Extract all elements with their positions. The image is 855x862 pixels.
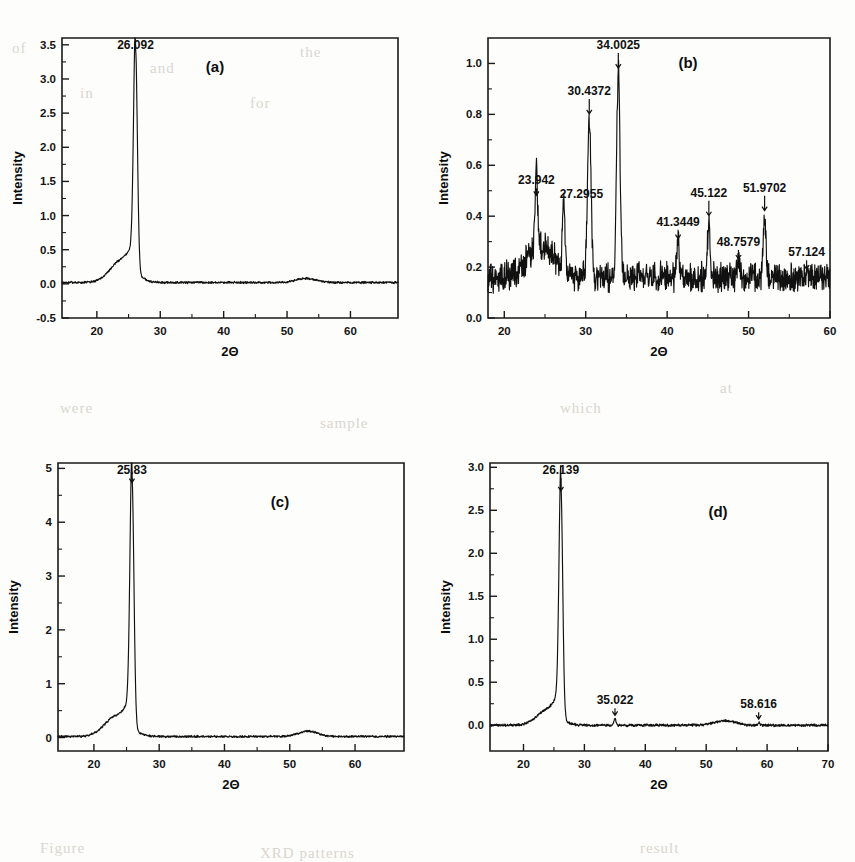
y-tick-label: 0.5 [40, 244, 57, 256]
x-tick-label: 40 [639, 758, 652, 770]
y-tick-label: 0.4 [466, 210, 483, 222]
peak-arrow [534, 188, 539, 195]
x-tick-label: 60 [349, 758, 362, 770]
bleed-text: which [560, 400, 602, 417]
x-tick-label: 20 [517, 758, 530, 770]
peak-label: 25.83 [117, 463, 147, 477]
y-tick-label: 3.0 [468, 461, 484, 473]
xrd-trace-d [490, 466, 828, 727]
y-axis-title: Intensity [6, 580, 21, 634]
peak-label: 48.7579 [717, 235, 761, 249]
peak-label: 35.022 [597, 693, 634, 707]
peak-arrow [587, 99, 592, 114]
bleed-text: at [720, 380, 733, 397]
x-tick-label: 50 [700, 758, 713, 770]
xrd-plot-b: 0.00.20.40.60.81.0203040506023.94227.295… [428, 20, 855, 370]
x-tick-label: 60 [824, 325, 837, 337]
y-tick-label: 0.0 [466, 312, 482, 324]
x-axis-title: 2Θ [650, 777, 667, 792]
x-tick-label: 70 [822, 758, 835, 770]
peak-arrow [675, 230, 680, 239]
peak-label: 45.122 [690, 186, 727, 200]
y-tick-label: 2.0 [468, 547, 484, 559]
peak-label: 30.4372 [568, 84, 612, 98]
y-axis-title: Intensity [438, 580, 453, 634]
panel-letter-b: (b) [678, 54, 697, 71]
y-tick-label: 1.0 [40, 210, 56, 222]
y-tick-label: 2 [46, 624, 52, 636]
y-tick-label: 1.5 [40, 175, 57, 187]
y-tick-label: 2.5 [468, 504, 485, 516]
y-tick-label: 0.0 [468, 719, 484, 731]
x-tick-label: 40 [217, 325, 230, 337]
y-axis-title: Intensity [436, 151, 451, 205]
bleed-text: XRD patterns [260, 845, 355, 862]
x-tick-label: 40 [218, 758, 231, 770]
plot-frame-c [58, 463, 404, 751]
y-tick-label: 5 [46, 462, 53, 474]
y-tick-label: 1.0 [466, 57, 482, 69]
x-axis-title: 2Θ [650, 344, 667, 359]
x-tick-label: 30 [153, 758, 166, 770]
y-tick-label: -0.5 [36, 312, 56, 324]
y-tick-label: 0 [46, 732, 52, 744]
y-tick-label: 3.5 [40, 39, 57, 51]
y-tick-label: 1.0 [468, 633, 484, 645]
peak-arrow [558, 478, 563, 491]
xrd-panel-a: -0.50.00.51.01.52.02.53.03.5203040506026… [0, 20, 420, 370]
xrd-plot-a: -0.50.00.51.01.52.02.53.03.5203040506026… [0, 20, 420, 370]
y-tick-label: 2.5 [40, 107, 57, 119]
y-axis-title: Intensity [10, 151, 25, 205]
peak-label: 26.092 [117, 38, 154, 52]
bleed-text: sample [320, 415, 369, 432]
bleed-text: Figure [40, 840, 85, 857]
x-tick-label: 50 [281, 325, 294, 337]
x-tick-label: 50 [283, 758, 296, 770]
xrd-plot-c: 012345203040506025.832ΘIntensity(c) [0, 445, 425, 805]
y-tick-label: 0.2 [466, 261, 482, 273]
x-axis-title: 2Θ [221, 344, 238, 359]
xrd-trace-a [62, 38, 398, 284]
y-tick-label: 0.8 [466, 108, 483, 120]
peak-label: 57.124 [788, 245, 825, 259]
x-tick-label: 30 [578, 758, 591, 770]
y-tick-label: 0.6 [466, 159, 482, 171]
x-tick-label: 30 [579, 325, 592, 337]
peak-label: 26.139 [543, 463, 580, 477]
xrd-panel-d: 0.00.51.01.52.02.53.020304050607026.1393… [428, 445, 855, 805]
peak-label: 23.942 [518, 173, 555, 187]
peak-arrow [736, 250, 741, 259]
peak-arrow [612, 708, 617, 715]
x-tick-label: 40 [661, 325, 674, 337]
peak-arrow [129, 478, 134, 483]
peak-arrow [706, 201, 711, 216]
xrd-trace-c [58, 463, 404, 738]
peak-arrow [762, 196, 767, 211]
x-tick-label: 20 [88, 758, 101, 770]
x-tick-label: 20 [498, 325, 511, 337]
xrd-panel-c: 012345203040506025.832ΘIntensity(c) [0, 445, 425, 805]
x-tick-label: 60 [761, 758, 774, 770]
x-tick-label: 20 [90, 325, 103, 337]
y-tick-label: 0.0 [40, 278, 56, 290]
peak-label: 41.3449 [656, 215, 700, 229]
xrd-plot-d: 0.00.51.01.52.02.53.020304050607026.1393… [428, 445, 855, 805]
peak-arrow [616, 53, 621, 68]
x-tick-label: 60 [344, 325, 357, 337]
y-tick-label: 3.0 [40, 73, 56, 85]
y-tick-label: 0.5 [468, 676, 485, 688]
plot-frame-a [62, 38, 398, 318]
x-axis-title: 2Θ [222, 777, 239, 792]
y-tick-label: 1.5 [468, 590, 485, 602]
x-tick-label: 30 [154, 325, 167, 337]
peak-label: 51.9702 [743, 181, 787, 195]
panel-letter-d: (d) [708, 503, 727, 520]
xrd-panel-b: 0.00.20.40.60.81.0203040506023.94227.295… [428, 20, 855, 370]
peak-arrow [756, 712, 761, 719]
panel-letter-a: (a) [206, 58, 224, 75]
panel-letter-c: (c) [271, 493, 289, 510]
y-tick-label: 3 [46, 570, 52, 582]
y-tick-label: 4 [46, 516, 53, 528]
peak-label: 34.0025 [597, 38, 641, 52]
y-tick-label: 1 [46, 678, 53, 690]
